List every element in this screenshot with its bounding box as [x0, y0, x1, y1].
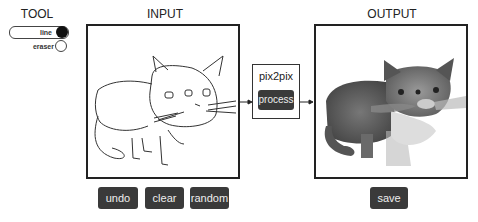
process-button[interactable]: process: [258, 90, 294, 110]
tool-option-line-label: line: [40, 27, 52, 38]
tool-option-eraser[interactable]: eraser: [30, 40, 68, 52]
arrow-right-icon: [309, 100, 313, 104]
input-title: INPUT: [140, 7, 190, 21]
tool-title: TOOL: [12, 7, 62, 21]
cat-sketch-drawing: [88, 26, 238, 177]
output-image: [314, 24, 468, 179]
undo-button[interactable]: undo: [98, 187, 138, 209]
clear-button[interactable]: clear: [145, 187, 184, 209]
output-title: OUTPUT: [362, 7, 422, 21]
model-name: pix2pix: [253, 70, 299, 82]
generated-cat-image: [316, 26, 466, 177]
tool-option-line[interactable]: line: [9, 26, 69, 39]
input-drawing-canvas[interactable]: [86, 24, 240, 179]
tool-option-eraser-label: eraser: [33, 41, 54, 52]
save-button[interactable]: save: [370, 187, 408, 209]
pix2pix-model-box: pix2pix process: [252, 64, 300, 119]
radio-selected-icon[interactable]: [56, 26, 68, 38]
random-button[interactable]: random: [190, 187, 229, 209]
radio-unselected-icon[interactable]: [55, 40, 67, 52]
